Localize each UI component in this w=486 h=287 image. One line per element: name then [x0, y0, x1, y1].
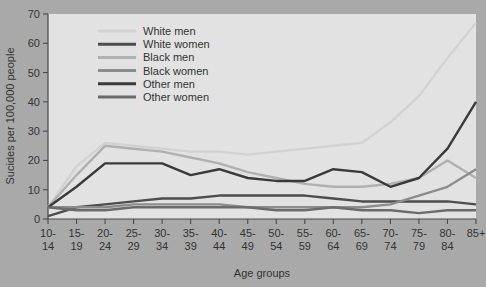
x-tick-label: 65- — [354, 227, 370, 239]
y-tick-label: 10 — [28, 184, 40, 196]
x-tick-label: 70- — [382, 227, 398, 239]
y-tick-label: 0 — [34, 213, 40, 225]
legend-label-black-women: Black women — [143, 65, 208, 77]
y-tick-label: 70 — [28, 8, 40, 20]
x-tick-label: 50- — [268, 227, 284, 239]
x-tick-label: 64 — [327, 240, 339, 252]
chart-canvas: 010203040506070 White menWhite womenBlac… — [0, 0, 486, 287]
x-tick-label: 39 — [185, 240, 197, 252]
x-axis-ticks — [48, 219, 476, 224]
x-axis-tick-labels: 10-1415-1920-2425-2930-3435-3940-4445-49… — [40, 227, 485, 252]
line-chart: 010203040506070 White menWhite womenBlac… — [0, 0, 486, 287]
x-tick-label: 85+ — [467, 227, 486, 239]
x-tick-label: 49 — [242, 240, 254, 252]
legend-label-white-men: White men — [143, 25, 196, 37]
x-tick-label: 54 — [270, 240, 282, 252]
x-tick-label: 34 — [156, 240, 168, 252]
y-axis-ticks: 010203040506070 — [28, 8, 48, 225]
legend-label-other-women: Other women — [143, 91, 209, 103]
x-tick-label: 45- — [240, 227, 256, 239]
x-tick-label: 30- — [154, 227, 170, 239]
x-tick-label: 20- — [97, 227, 113, 239]
y-tick-label: 50 — [28, 67, 40, 79]
x-tick-label: 24 — [99, 240, 111, 252]
y-axis-title: Sucides per 100,000 people — [4, 48, 16, 185]
x-tick-label: 69 — [356, 240, 368, 252]
x-axis-title: Age groups — [234, 267, 291, 279]
x-tick-label: 44 — [213, 240, 225, 252]
legend-label-white-women: White women — [143, 38, 210, 50]
x-tick-label: 55- — [297, 227, 313, 239]
x-tick-label: 75- — [411, 227, 427, 239]
y-tick-label: 20 — [28, 154, 40, 166]
x-tick-label: 79 — [413, 240, 425, 252]
x-tick-label: 35- — [183, 227, 199, 239]
y-tick-label: 40 — [28, 96, 40, 108]
legend-label-other-men: Other men — [143, 78, 195, 90]
x-tick-label: 40- — [211, 227, 227, 239]
x-tick-label: 80- — [440, 227, 456, 239]
x-tick-label: 10- — [40, 227, 56, 239]
x-tick-label: 60- — [325, 227, 341, 239]
x-tick-label: 14 — [42, 240, 54, 252]
x-tick-label: 15- — [69, 227, 85, 239]
x-tick-label: 19 — [70, 240, 82, 252]
x-tick-label: 25- — [126, 227, 142, 239]
legend-label-black-men: Black men — [143, 51, 194, 63]
x-tick-label: 84 — [441, 240, 453, 252]
x-tick-label: 59 — [299, 240, 311, 252]
x-tick-label: 29 — [127, 240, 139, 252]
y-tick-label: 30 — [28, 125, 40, 137]
y-tick-label: 60 — [28, 37, 40, 49]
x-tick-label: 74 — [384, 240, 396, 252]
